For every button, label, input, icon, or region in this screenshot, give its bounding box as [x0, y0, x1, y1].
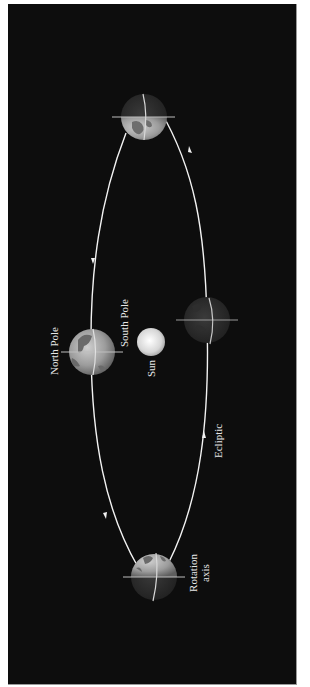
earth-globe-top — [112, 94, 175, 143]
earth-globe-left — [61, 329, 123, 375]
sun-icon — [137, 328, 165, 356]
rotation-axis-label: Rotation axis — [187, 550, 211, 596]
orbit-diagram — [0, 0, 310, 687]
arrow-up-icon — [188, 146, 192, 153]
earth-globe-bottom — [123, 551, 185, 601]
ecliptic-label: Ecliptic — [212, 424, 224, 458]
arrow-down-icon — [103, 512, 107, 519]
sun-label: Sun — [145, 360, 157, 377]
rotation-axis-label-line2: axis — [199, 550, 211, 596]
arrow-up-icon — [202, 431, 206, 438]
north-pole-label: North Pole — [48, 327, 60, 375]
earth-globe-right — [176, 297, 238, 344]
rotation-axis-label-line1: Rotation — [187, 550, 199, 596]
south-pole-label: South Pole — [118, 299, 130, 347]
